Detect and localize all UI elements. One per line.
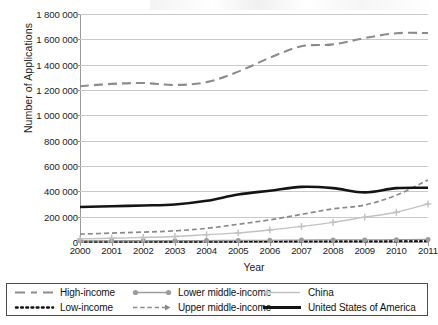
legend-label: Low-income bbox=[60, 302, 113, 313]
legend-item-united-states: United States of America bbox=[261, 300, 416, 315]
series-lines bbox=[80, 14, 428, 242]
x-axis-tick-label: 2010 bbox=[386, 245, 407, 256]
series-united-states-of-america bbox=[80, 187, 428, 207]
plot-area bbox=[80, 14, 428, 242]
x-axis-tick-label: 2006 bbox=[260, 245, 281, 256]
legend-label: Upper middle-income bbox=[178, 302, 271, 313]
legend-row: High-income Lower middle-income China bbox=[7, 285, 427, 300]
x-axis-tick-label: 2003 bbox=[165, 245, 186, 256]
data-point-marker bbox=[140, 234, 147, 241]
x-axis-tick-label: 2005 bbox=[228, 245, 249, 256]
x-axis-tick-label: 2008 bbox=[323, 245, 344, 256]
data-point-marker bbox=[426, 237, 431, 242]
legend-label: United States of America bbox=[308, 302, 416, 313]
data-point-marker bbox=[394, 237, 399, 242]
x-axis-tick-label: 2007 bbox=[291, 245, 312, 256]
legend-item-china: China bbox=[261, 285, 334, 300]
legend-marker-lower-middle-income bbox=[131, 286, 173, 299]
y-axis-tick-label: 200 000 bbox=[44, 211, 78, 222]
y-axis-tick-label: 800 000 bbox=[44, 135, 78, 146]
y-axis-tick-label: 1 000 000 bbox=[36, 110, 78, 121]
data-point-marker bbox=[172, 233, 179, 240]
legend-item-low-income: Low-income bbox=[13, 300, 113, 315]
legend-label: Lower middle-income bbox=[178, 287, 271, 298]
legend-marker-china bbox=[261, 286, 303, 299]
x-axis-tick-label: 2004 bbox=[196, 245, 217, 256]
y-axis-tick-label: 1 600 000 bbox=[36, 34, 78, 45]
y-axis-tick-labels: 0200 000400 000600 000800 0001 000 0001 … bbox=[12, 0, 78, 260]
y-axis-tick-label: 400 000 bbox=[44, 186, 78, 197]
scan-artifact bbox=[150, 0, 434, 10]
x-axis-tick-label: 2011 bbox=[418, 245, 438, 256]
legend-row: Low-income Upper middle-income United St… bbox=[7, 300, 427, 315]
x-axis-tick-label: 2000 bbox=[70, 245, 91, 256]
legend-label: High-income bbox=[60, 287, 115, 298]
x-axis-tick-labels: 2000200120022003200420052006200720082009… bbox=[80, 245, 428, 259]
data-point-marker bbox=[362, 237, 367, 242]
legend-marker-upper-middle-income bbox=[131, 301, 173, 314]
data-point-marker bbox=[204, 238, 209, 243]
data-point-marker bbox=[266, 227, 273, 234]
legend-item-high-income: High-income bbox=[13, 285, 115, 300]
series-high-income bbox=[80, 33, 428, 86]
legend-marker-high-income bbox=[13, 286, 55, 299]
legend-marker-low-income bbox=[13, 301, 55, 314]
x-axis-tick-label: 2009 bbox=[354, 245, 375, 256]
data-point-marker bbox=[236, 238, 241, 243]
y-axis-tick-label: 1 200 000 bbox=[36, 85, 78, 96]
x-axis-tick-label: 2001 bbox=[101, 245, 122, 256]
data-point-marker bbox=[299, 238, 304, 243]
legend-label: China bbox=[308, 287, 334, 298]
data-point-marker bbox=[267, 238, 272, 243]
y-axis-tick-label: 1 400 000 bbox=[36, 59, 78, 70]
data-point-marker bbox=[235, 229, 242, 236]
x-axis-title: Year bbox=[80, 261, 428, 273]
data-point-marker bbox=[298, 223, 305, 230]
legend-item-lower-middle-income: Lower middle-income bbox=[131, 285, 271, 300]
data-point-marker bbox=[330, 219, 337, 226]
data-point-marker bbox=[331, 237, 336, 242]
x-axis-tick-label: 2002 bbox=[133, 245, 154, 256]
data-point-marker bbox=[361, 214, 368, 221]
data-point-marker bbox=[393, 209, 400, 216]
y-axis-tick-label: 600 000 bbox=[44, 161, 78, 172]
data-point-marker bbox=[203, 231, 210, 238]
data-point-marker bbox=[425, 201, 432, 208]
chart-legend: High-income Lower middle-income China Lo… bbox=[6, 283, 428, 316]
y-axis-tick-label: 1 800 000 bbox=[36, 9, 78, 20]
legend-marker-united-states bbox=[261, 301, 303, 314]
legend-item-upper-middle-income: Upper middle-income bbox=[131, 300, 271, 315]
